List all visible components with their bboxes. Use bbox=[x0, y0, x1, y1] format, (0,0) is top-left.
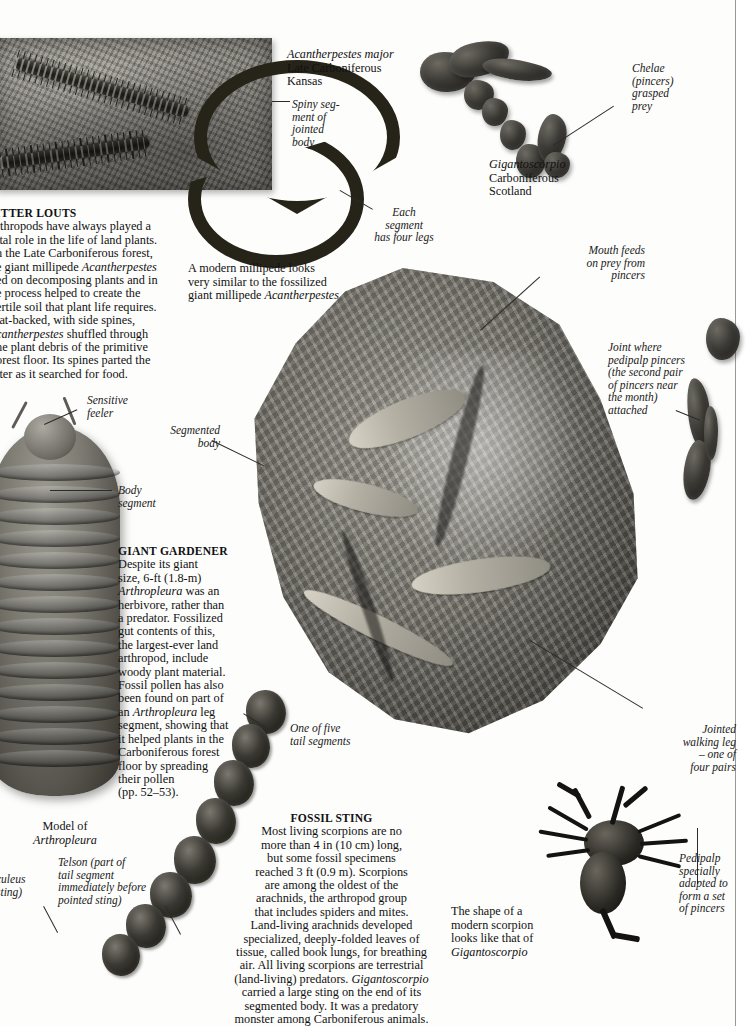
callout-each-segment: Each segment has four legs bbox=[362, 206, 446, 244]
fossil-millipede-2 bbox=[0, 116, 153, 188]
callout-segmented-body: Segmented body bbox=[152, 424, 220, 449]
article-fossil-sting-line-12: carried a large sting on the end of its bbox=[215, 986, 448, 999]
callout-spiny-segment-line-0: Spiny seg- bbox=[292, 98, 382, 111]
label-gigantoscorpio-line-0: Gigantoscorpio bbox=[489, 157, 566, 171]
note-modern-millipede-line-2a: giant millipede bbox=[188, 288, 265, 302]
article-fossil-sting-line-8: specialized, deeply-folded leaves of bbox=[215, 933, 448, 946]
callout-joint-where-line-0: Joint where bbox=[608, 341, 712, 354]
note-modern-scorpion-line-0: The shape of a bbox=[451, 905, 601, 919]
note-modern-scorpion: The shape of a modern scorpion looks lik… bbox=[451, 905, 601, 959]
callout-mouth-feeds-line-1: on prey from bbox=[549, 257, 645, 270]
callout-sensitive-feeler: Sensitive feeler bbox=[87, 394, 167, 419]
callout-sensitive-feeler-line-0: Sensitive bbox=[87, 394, 167, 407]
leader-body-segment bbox=[50, 490, 112, 491]
callout-joint-where-line-2: (the second pair bbox=[608, 366, 712, 379]
article-fossil-sting: FOSSIL STING Most living scorpions are n… bbox=[215, 812, 448, 1026]
label-arthropleura: Arthropleura bbox=[33, 833, 97, 847]
article-fossil-sting-line-0: Most living scorpions are no bbox=[215, 825, 448, 838]
article-litter-louts: ITTER LOUTS rthropods have always played… bbox=[0, 207, 166, 381]
callout-pedipalp-line-2: adapted to bbox=[679, 877, 751, 890]
callout-chelae-line-3: prey bbox=[632, 100, 718, 113]
callout-segmented-body-line-0: Segmented bbox=[152, 424, 220, 437]
callout-spiny-segment-line-3: body bbox=[292, 136, 382, 149]
fossil-millipede-1 bbox=[6, 38, 198, 145]
callout-aculeus: culeus sting) bbox=[0, 873, 66, 898]
article-giant-gardener-line-15: floor by spreading bbox=[118, 760, 238, 773]
article-giant-gardener-genus-2: Arthropleura bbox=[133, 705, 197, 719]
callout-pedipalp-line-0: Pedipalp bbox=[679, 852, 751, 865]
article-fossil-sting-line-14: monster among Carboniferous animals. bbox=[215, 1013, 448, 1026]
article-fossil-sting-line-1: more than 4 in (10 cm) long, bbox=[215, 839, 448, 852]
article-litter-louts-line-5: e process helped to create the bbox=[0, 287, 166, 300]
callout-jointed-walking-leg: Jointed walking leg – one of four pairs bbox=[656, 723, 736, 773]
note-modern-scorpion-line-1: modern scorpion bbox=[451, 919, 601, 933]
article-litter-louts-line-10: orest floor. Its spines parted the bbox=[0, 354, 166, 367]
callout-pedipalp: Pedipalp specially adapted to form a set… bbox=[679, 852, 751, 915]
article-giant-gardener-line-16: their pollen bbox=[118, 773, 238, 786]
callout-telson-line-1: tail segment bbox=[58, 869, 176, 882]
article-giant-gardener-line-2b: was an bbox=[182, 584, 219, 598]
article-litter-louts-line-4: ed on decomposing plants and in bbox=[0, 274, 166, 287]
article-litter-louts-line-11: tter as it searched for food. bbox=[0, 368, 166, 381]
callout-one-of-five: One of five tail segments bbox=[290, 722, 376, 747]
label-gigantoscorpio-line-2: Scotland bbox=[489, 185, 639, 199]
callout-joint-where: Joint where pedipalp pincers (the second… bbox=[608, 341, 712, 417]
leader-aculeus bbox=[43, 906, 58, 933]
callout-spiny-segment: Spiny seg- ment of jointed body bbox=[292, 98, 382, 148]
article-giant-gardener-line-10: been found on part of bbox=[118, 692, 238, 705]
article-litter-louts-line-7: lat-backed, with side spines, bbox=[0, 314, 166, 327]
callout-spiny-segment-line-1: ment of bbox=[292, 111, 382, 124]
callout-sensitive-feeler-line-1: feeler bbox=[87, 407, 167, 420]
article-giant-gardener-line-1: size, 6-ft (1.8-m) bbox=[118, 572, 238, 585]
label-acantherpestes-line-0: Acantherpestes major bbox=[287, 47, 394, 61]
article-giant-gardener-line-6: the largest-ever land bbox=[118, 639, 238, 652]
callout-mouth-feeds-line-2: pincers bbox=[549, 269, 645, 282]
callout-chelae: Chelae (pincers) grasped prey bbox=[632, 62, 718, 112]
callout-one-of-five-line-0: One of five bbox=[290, 722, 376, 735]
callout-jointed-walking-leg-line-1: walking leg bbox=[656, 736, 736, 749]
callout-chelae-line-1: (pincers) bbox=[632, 75, 718, 88]
callout-telson: Telson (part of tail segment immediately… bbox=[58, 856, 176, 906]
article-fossil-sting-line-6: that includes spiders and mites. bbox=[215, 906, 448, 919]
callout-jointed-walking-leg-line-3: four pairs bbox=[656, 761, 736, 774]
note-modern-millipede: A modern millipede looks very similar to… bbox=[188, 262, 370, 303]
article-fossil-sting-genus: Gigantoscorpio bbox=[351, 972, 428, 986]
callout-chelae-line-2: grasped bbox=[632, 87, 718, 100]
article-giant-gardener-line-5: gut contents of this, bbox=[118, 625, 238, 638]
article-giant-gardener-genus-1: Arthropleura bbox=[118, 584, 182, 598]
article-giant-gardener: GIANT GARDENER Despite its giant size, 6… bbox=[118, 545, 238, 800]
article-litter-louts-line-2: n the Late Carboniferous forest, bbox=[0, 247, 166, 260]
label-gigantoscorpio-line-1: Carboniferous bbox=[489, 172, 639, 186]
callout-joint-where-line-5: attached bbox=[608, 404, 712, 417]
article-litter-louts-line-3a: e giant millipede bbox=[0, 260, 82, 274]
callout-telson-line-2: immediately before bbox=[58, 881, 176, 894]
callout-joint-where-line-4: the month) bbox=[608, 391, 712, 404]
article-fossil-sting-line-11a: (land-living) predators. bbox=[234, 972, 351, 986]
article-giant-gardener-line-12: segment, showing that bbox=[118, 719, 238, 732]
article-litter-louts-line-1: ital role in the life of land plants. bbox=[0, 234, 166, 247]
callout-chelae-line-0: Chelae bbox=[632, 62, 718, 75]
callout-aculeus-line-0: culeus bbox=[0, 873, 66, 886]
callout-pedipalp-line-4: of pincers bbox=[679, 902, 751, 915]
article-giant-gardener-heading: GIANT GARDENER bbox=[118, 545, 238, 558]
callout-telson-line-3: pointed sting) bbox=[58, 894, 176, 907]
article-fossil-sting-line-3: reached 3 ft (0.9 m). Scorpions bbox=[215, 866, 448, 879]
label-model-of-arthropleura: Model of Arthropleura bbox=[10, 820, 120, 847]
article-fossil-sting-line-4: are among the oldest of the bbox=[215, 879, 448, 892]
article-litter-louts-heading: ITTER LOUTS bbox=[0, 207, 166, 220]
article-giant-gardener-line-11a: an bbox=[118, 705, 133, 719]
callout-pedipalp-line-3: form a set bbox=[679, 890, 751, 903]
callout-jointed-walking-leg-line-2: – one of bbox=[656, 748, 736, 761]
label-model-of: Model of bbox=[10, 820, 120, 834]
note-modern-millipede-line-0: A modern millipede looks bbox=[188, 262, 370, 276]
article-fossil-sting-line-2: but some fossil specimens bbox=[215, 852, 448, 865]
callout-segmented-body-line-1: body bbox=[152, 437, 220, 450]
article-litter-louts-line-6: ertile soil that plant life requires. bbox=[0, 301, 166, 314]
callout-spiny-segment-line-2: jointed bbox=[292, 123, 382, 136]
callout-one-of-five-line-1: tail segments bbox=[290, 735, 376, 748]
note-modern-millipede-genus: Acantherpestes bbox=[265, 288, 339, 302]
article-giant-gardener-line-17: (pp. 52–53). bbox=[118, 786, 238, 799]
callout-jointed-walking-leg-line-0: Jointed bbox=[656, 723, 736, 736]
article-giant-gardener-line-7: arthropod, include bbox=[118, 652, 238, 665]
article-fossil-sting-heading: FOSSIL STING bbox=[215, 812, 448, 825]
